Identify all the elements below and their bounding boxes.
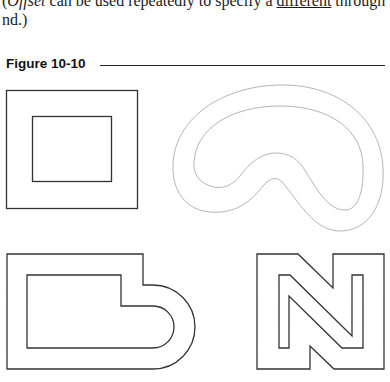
kidney-offset-shape (173, 85, 383, 231)
kidney-inner-curve (194, 106, 363, 210)
rectangle-offset-shape (7, 91, 138, 209)
polyline-inner (27, 275, 174, 348)
polyline-arc-offset-shape (7, 254, 195, 369)
letter-n-outer (257, 254, 384, 369)
letter-n-inner (279, 275, 363, 348)
inner-rectangle (33, 117, 112, 182)
outer-rectangle (7, 91, 138, 209)
letter-n-offset-shape (257, 254, 384, 369)
kidney-outer-curve (173, 85, 383, 231)
